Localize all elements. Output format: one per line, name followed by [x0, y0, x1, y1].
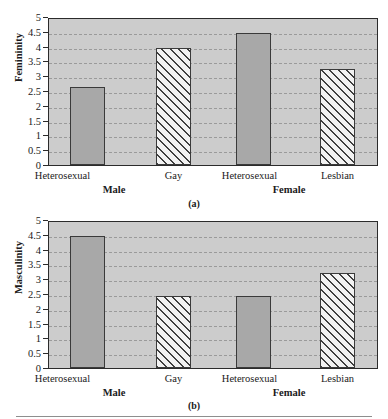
y-tick-label: 3 — [36, 71, 41, 83]
bar-b-lesbian — [320, 273, 355, 368]
y-tick-a-5: 5 — [0, 12, 48, 24]
panel-caption-a: (a) — [0, 198, 388, 209]
footer-divider — [16, 416, 372, 417]
y-tick-label: 1.5 — [28, 116, 41, 128]
panel-caption-b: (b) — [0, 400, 388, 411]
x-label-b-2: Heterosexual — [204, 373, 295, 385]
y-tick-a-3: 3 — [0, 71, 48, 83]
y-tick-b-4_5: 4.5 — [0, 230, 48, 242]
y-tick-b-4: 4 — [0, 245, 48, 257]
chart-b: Masculinity 5 4.5 4 3.5 3 2.5 2 1.5 1 0.… — [0, 210, 388, 385]
y-tick-b-3_5: 3.5 — [0, 259, 48, 271]
y-tick-a-0_5: 0.5 — [0, 145, 48, 157]
x-label-a-0: Heterosexual — [17, 170, 108, 182]
group-label-a-male: Male — [64, 184, 164, 196]
y-tick-b-1_5: 1.5 — [0, 319, 48, 331]
y-tick-a-4_5: 4.5 — [0, 27, 48, 39]
x-label-a-2: Heterosexual — [204, 170, 295, 182]
y-tick-label: 3.5 — [28, 259, 41, 271]
y-tick-b-0_5: 0.5 — [0, 348, 48, 360]
y-tick-label: 0.5 — [28, 145, 41, 157]
group-label-a-female: Female — [239, 184, 339, 196]
group-label-b-male: Male — [64, 387, 164, 399]
bar-b-gay — [156, 296, 191, 369]
chart-a: Femininity 5 4.5 4 3.5 3 2.5 2 1.5 1 0.5… — [0, 0, 388, 175]
y-tick-label: 4 — [36, 42, 41, 54]
y-tick-a-3_5: 3.5 — [0, 56, 48, 68]
y-tick-label: 4 — [36, 245, 41, 257]
bar-a-heterosexual-female — [236, 33, 271, 165]
y-tick-a-1_5: 1.5 — [0, 116, 48, 128]
y-tick-b-2_5: 2.5 — [0, 289, 48, 301]
gridline — [49, 63, 377, 64]
bar-a-gay — [156, 48, 191, 165]
y-tick-label: 5 — [36, 12, 41, 24]
y-tick-label: 2 — [36, 101, 41, 113]
y-tick-label: 1 — [36, 130, 41, 142]
group-label-b-female: Female — [239, 387, 339, 399]
y-tick-label: 5 — [36, 215, 41, 227]
y-tick-label: 1 — [36, 333, 41, 345]
figure-a: Femininity 5 4.5 4 3.5 3 2.5 2 1.5 1 0.5… — [0, 0, 388, 210]
plot-area-a — [48, 18, 378, 166]
y-tick-label: 4.5 — [28, 27, 41, 39]
y-tick-a-1: 1 — [0, 130, 48, 142]
x-label-b-3: Lesbian — [292, 373, 383, 385]
y-tick-label: 2 — [36, 304, 41, 316]
x-label-a-3: Lesbian — [292, 170, 383, 182]
y-tick-a-2_5: 2.5 — [0, 86, 48, 98]
y-tick-label: 4.5 — [28, 230, 41, 242]
y-tick-label: 0.5 — [28, 348, 41, 360]
bar-a-heterosexual-male — [70, 87, 105, 165]
gridline — [49, 34, 377, 35]
y-tick-b-5: 5 — [0, 215, 48, 227]
y-tick-label: 1.5 — [28, 319, 41, 331]
x-label-b-0: Heterosexual — [17, 373, 108, 385]
y-tick-label: 2.5 — [28, 86, 41, 98]
y-tick-label: 3.5 — [28, 56, 41, 68]
y-tick-b-2: 2 — [0, 304, 48, 316]
gridline — [49, 49, 377, 50]
y-tick-b-3: 3 — [0, 274, 48, 286]
y-tick-b-1: 1 — [0, 333, 48, 345]
bar-b-heterosexual-male — [70, 236, 105, 368]
y-tick-label: 2.5 — [28, 289, 41, 301]
plot-area-b — [48, 221, 378, 369]
y-tick-a-4: 4 — [0, 42, 48, 54]
y-tick-label: 3 — [36, 274, 41, 286]
bar-b-heterosexual-female — [236, 296, 271, 369]
figure-b: Masculinity 5 4.5 4 3.5 3 2.5 2 1.5 1 0.… — [0, 210, 388, 419]
bar-a-lesbian — [320, 69, 355, 165]
y-tick-a-2: 2 — [0, 101, 48, 113]
